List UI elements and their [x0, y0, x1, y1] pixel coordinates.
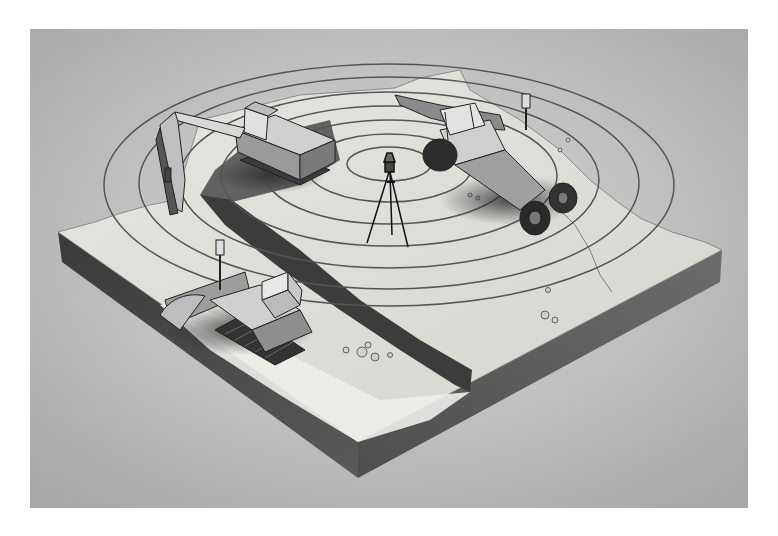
illustration-frame — [30, 29, 748, 508]
laser-level-site-illustration — [30, 29, 748, 508]
